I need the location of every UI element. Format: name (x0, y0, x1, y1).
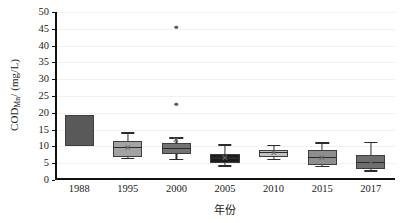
y-tick-label: 40 (39, 40, 50, 51)
mean-marker: ✕ (318, 153, 327, 162)
whisker-cap-upper (364, 142, 377, 143)
whisker-cap-lower (315, 166, 328, 167)
whisker-cap-upper (315, 142, 328, 143)
box-rect (65, 115, 94, 147)
y-tick-label: 25 (39, 91, 50, 102)
mean-marker: ✕ (123, 144, 132, 153)
whisker-cap-lower (121, 158, 134, 159)
whisker-cap-upper (218, 144, 231, 145)
plot-area: ✕✕✕✕✕✕ (55, 12, 395, 180)
y-tick-label: 5 (44, 158, 49, 169)
x-axis-spine (55, 178, 395, 180)
box-plot-2000: ✕ (162, 12, 191, 180)
mean-marker: ✕ (366, 158, 375, 167)
x-tick-label: 2015 (312, 184, 333, 195)
y-tick-mark (52, 180, 55, 181)
y-tick-label: 45 (39, 24, 50, 35)
box-plot-2005: ✕ (210, 12, 239, 180)
mean-marker: ✕ (172, 135, 181, 144)
whisker-cap-lower (364, 170, 377, 171)
y-axis-spine (55, 12, 57, 180)
whisker-cap-upper (267, 145, 280, 146)
x-tick-label: 2017 (360, 184, 381, 195)
box-plot-1988 (65, 12, 94, 180)
y-tick-label: 10 (39, 141, 50, 152)
x-tick-label: 2005 (215, 184, 236, 195)
x-tick-label: 1988 (69, 184, 90, 195)
whisker-cap-lower (218, 165, 231, 166)
whisker-cap-upper (121, 132, 134, 133)
y-tick-label: 0 (44, 175, 49, 186)
box-plot-1995: ✕ (113, 12, 142, 180)
y-tick-label: 15 (39, 124, 50, 135)
y-tick-label: 20 (39, 108, 50, 119)
y-axis-title: CODMn/ (mg/L) (2, 0, 26, 190)
whisker-upper (370, 143, 371, 155)
boxplot-chart: CODMn/ (mg/L) 05101520253035404550 ✕✕✕✕✕… (0, 0, 403, 223)
outlier-point (175, 103, 178, 106)
box-plot-2015: ✕ (308, 12, 337, 180)
whisker-cap-lower (170, 159, 183, 160)
median-line (162, 148, 191, 149)
y-tick-label: 30 (39, 74, 50, 85)
outlier-point (175, 25, 178, 28)
box-plot-2017: ✕ (356, 12, 385, 180)
whisker-cap-lower (267, 159, 280, 160)
y-tick-label: 35 (39, 57, 50, 68)
x-axis-tick-labels: 1988199520002005201020152017 (55, 184, 395, 200)
x-tick-label: 2010 (263, 184, 284, 195)
mean-marker: ✕ (220, 154, 229, 163)
x-axis-title: 年份 (55, 201, 395, 217)
x-tick-label: 2000 (166, 184, 187, 195)
whisker-upper (127, 134, 128, 142)
x-tick-label: 1995 (117, 184, 138, 195)
y-axis-tick-labels: 05101520253035404550 (24, 12, 52, 180)
y-axis-title-text: CODMn/ (mg/L) (8, 59, 20, 131)
box-plot-2010: ✕ (259, 12, 288, 180)
y-tick-label: 50 (39, 7, 50, 18)
mean-marker: ✕ (269, 149, 278, 158)
